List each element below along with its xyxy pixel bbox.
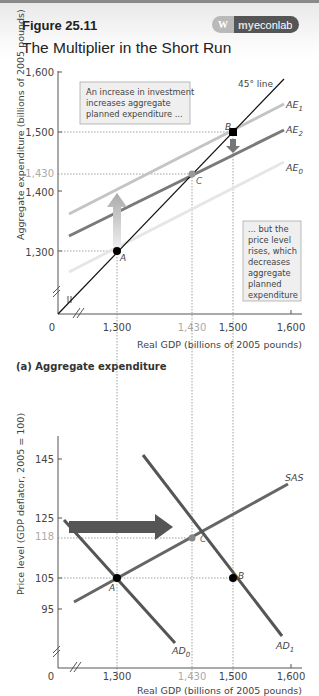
point-c [189,171,196,178]
tick-x-0: 0 [49,322,55,333]
point-b [229,574,237,582]
label-45-line: 45° line [238,79,274,89]
panel-a-chart: Aggregate expenditure (billions of 2005 … [15,9,305,680]
panel-b-y-axis-label: Price level (GDP deflator, 2005 = 100) [15,413,26,595]
svg-text:C: C [196,176,203,186]
point-c [189,535,196,542]
svg-text:C: C [200,534,207,544]
tick-x-1300: 1,300 [103,671,132,682]
annotation-investment: An increase in investment increases aggr… [80,82,197,124]
x-axis-break-icon [73,308,84,318]
svg-text:A: A [119,253,126,263]
label-ad1: AD1 [275,640,294,654]
tick-x-0: 0 [48,671,54,682]
y-axis-break-icon [53,286,60,297]
right-arrow-icon [69,514,173,540]
panel-b-chart: Price level (GDP deflator, 2005 = 100) 1… [15,413,305,696]
label-ae0: AE0 [285,162,304,176]
panel-b-x-axis-label: Real GDP (billions of 2005 pounds) [137,685,302,696]
tick-y-118: 118 [35,531,54,542]
down-arrow-icon [226,139,240,153]
svg-text:B: B [225,122,231,132]
svg-text:A: A [108,583,115,593]
sas-curve [74,484,288,602]
tick-x-1600: 1,600 [277,322,306,333]
annotation-price-level: ... but the price level rises, which dec… [243,221,301,301]
up-arrow-icon [107,193,127,247]
label-ae1: AE1 [285,99,303,113]
tick-y-1300: 1,300 [25,247,54,258]
tick-x-1500: 1,500 [219,671,248,682]
y-axis-break-icon [53,646,60,657]
label-sas: SAS [285,472,304,483]
tick-y-1600: 1,600 [25,67,54,78]
panel-a-y-axis-label: Aggregate expenditure (billions of 2005 … [15,9,26,240]
svg-text:B: B [238,571,244,581]
tick-y-1400: 1,400 [25,187,54,198]
label-ae2: AE2 [285,124,304,138]
tick-y-95: 95 [41,604,54,615]
tick-x-1600: 1,600 [277,671,306,682]
ad0-curve [64,520,175,643]
tick-y-125: 125 [35,513,54,524]
tick-x-1430: 1,430 [178,671,207,682]
label-ad0: AD0 [171,645,191,659]
tick-y-145: 145 [35,454,54,465]
ad1-curve [143,455,282,636]
ae2-line [69,130,284,236]
point-a [113,574,121,582]
tick-y-105: 105 [35,573,54,584]
figure-charts: Aggregate expenditure (billions of 2005 … [0,0,319,696]
panel-a-x-axis-label: Real GDP (billions of 2005 pounds) [137,339,302,350]
panel-a-label: (a) Aggregate expenditure [16,361,167,372]
tick-y-1430: 1,430 [25,168,54,179]
x-axis-break-icon [70,662,81,672]
tick-y-1500: 1,500 [25,127,54,138]
